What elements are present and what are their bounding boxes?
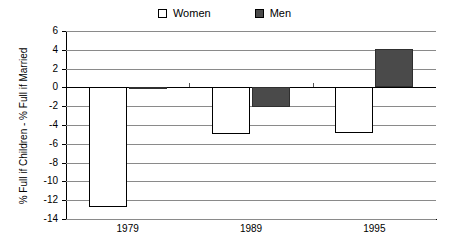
y-tick-label: -14 bbox=[32, 214, 58, 224]
gridline bbox=[66, 219, 436, 220]
legend-label-men: Men bbox=[270, 8, 291, 19]
x-tick-label-1989: 1989 bbox=[221, 224, 281, 234]
x-tick-label-1995: 1995 bbox=[344, 224, 404, 234]
legend-entry-men: Men bbox=[255, 8, 291, 19]
chart-legend: Women Men bbox=[0, 8, 449, 19]
bar-chart: Women Men % Full if Children - % Full if… bbox=[0, 0, 449, 252]
y-tick-label: -12 bbox=[32, 195, 58, 205]
y-axis-title: % Full if Children - % Full if Married bbox=[16, 0, 32, 252]
bar-men-1995 bbox=[375, 49, 413, 88]
x-tick-label-1979: 1979 bbox=[98, 224, 158, 234]
bar-men-1989 bbox=[252, 87, 290, 107]
legend-entry-women: Women bbox=[158, 8, 211, 19]
y-tick-label: -10 bbox=[32, 176, 58, 186]
y-tick-label: -8 bbox=[32, 158, 58, 168]
hollow-square-icon bbox=[158, 9, 167, 18]
y-tick-label: 0 bbox=[32, 82, 58, 92]
bar-men-1979 bbox=[129, 87, 167, 89]
plot-area bbox=[66, 31, 436, 219]
bar-women-1989 bbox=[212, 87, 250, 134]
bar-women-1995 bbox=[335, 87, 373, 132]
filled-square-icon bbox=[255, 9, 264, 18]
y-tick-label: -2 bbox=[32, 101, 58, 111]
gridline bbox=[66, 31, 436, 32]
y-tick-label: 2 bbox=[32, 64, 58, 74]
legend-label-women: Women bbox=[173, 8, 211, 19]
y-tick-label: 6 bbox=[32, 26, 58, 36]
bar-women-1979 bbox=[89, 87, 127, 206]
y-tick-label: -4 bbox=[32, 120, 58, 130]
y-tick-label: 4 bbox=[32, 45, 58, 55]
y-tick-label: -6 bbox=[32, 139, 58, 149]
